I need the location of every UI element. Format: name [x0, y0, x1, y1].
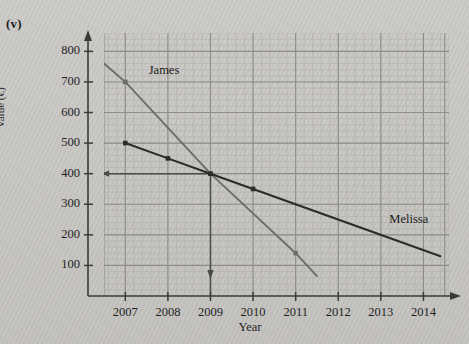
series-line-melissa — [125, 143, 440, 256]
y-tick-label: 700 — [36, 75, 80, 88]
y-tick-label: 100 — [36, 258, 80, 271]
y-tick-label: 500 — [36, 136, 80, 149]
x-axis-title: Year — [60, 320, 440, 335]
data-point — [208, 171, 213, 176]
data-point — [123, 80, 128, 85]
x-tick-label: 2014 — [398, 306, 448, 319]
part-label: (v) — [6, 16, 22, 32]
data-point — [251, 187, 256, 192]
y-tick-label: 200 — [36, 228, 80, 241]
data-point — [166, 156, 171, 161]
y-axis-title: Value (€) — [0, 87, 6, 128]
y-tick-label: 400 — [36, 167, 80, 180]
y-tick-label: 600 — [36, 106, 80, 119]
series-label-james: James — [149, 63, 180, 78]
data-point — [123, 141, 128, 146]
series-label-melissa: Melissa — [389, 212, 428, 227]
figure-canvas: (v) Value (€) 100200300400500600700800 2… — [0, 0, 469, 344]
y-tick-label: 300 — [36, 197, 80, 210]
y-tick-label: 800 — [36, 44, 80, 57]
data-point — [293, 251, 298, 256]
